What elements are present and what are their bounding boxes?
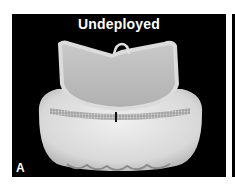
image-panel-a: Undeployed A [12, 14, 226, 177]
adjacent-panel-edge [232, 14, 235, 177]
device-frame [60, 43, 177, 110]
device-marker [115, 112, 117, 122]
panel-letter: A [16, 161, 25, 175]
valve-device-photo [12, 14, 226, 177]
